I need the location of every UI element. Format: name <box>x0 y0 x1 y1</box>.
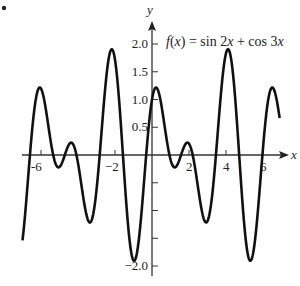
x-tick-label: 4 <box>223 159 230 174</box>
x-axis-label: x <box>290 147 297 162</box>
x-tick-label: −2 <box>105 159 119 174</box>
y-axis-label: y <box>145 2 153 17</box>
x-tick-label: -6 <box>31 159 42 174</box>
x-tick-label: 2 <box>186 159 193 174</box>
chart-title: f(x) = sin 2x + cos 3x <box>166 34 284 50</box>
y-tick-label: 1.0 <box>132 92 148 107</box>
y-tick-label: 0.5 <box>132 119 148 134</box>
y-tick-label: 2.0 <box>132 36 148 51</box>
plot-area: xy-6−22462.01.51.00.5−2.0f(x) = sin 2x +… <box>0 0 300 286</box>
y-tick-label: 1.5 <box>132 64 148 79</box>
chart: xy-6−22462.01.51.00.5−2.0f(x) = sin 2x +… <box>0 0 300 286</box>
marker-dot <box>2 6 6 10</box>
